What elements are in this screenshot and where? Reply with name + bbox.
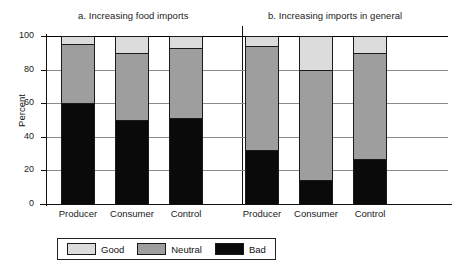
bar-segment-good [115,36,149,53]
chart-legend: GoodNeutralBad [57,238,276,260]
legend-item-good: Good [67,243,124,255]
bar-b-producer [245,36,279,204]
legend-swatch-bad [215,243,244,255]
y-tick-label-100: 100 [8,30,34,40]
panel-b-title: b. Increasing imports in general [268,10,402,21]
bar-segment-neutral [299,70,333,181]
bar-segment-bad [115,120,149,204]
legend-item-bad: Bad [215,243,266,255]
legend-label-good: Good [101,244,124,255]
bar-segment-good [245,36,279,46]
panel-a-title: a. Increasing food imports [78,10,189,21]
bar-a-producer [61,36,95,204]
legend-label-bad: Bad [249,244,266,255]
bar-segment-bad [169,118,203,204]
bar-segment-bad [353,159,387,204]
x-label-a-control: Control [151,208,221,219]
y-tick-label-40: 40 [8,131,34,141]
bar-segment-neutral [61,44,95,103]
y-tick-label-60: 60 [8,97,34,107]
bar-a-control [169,36,203,204]
plot-area [47,36,448,204]
bar-segment-neutral [169,48,203,119]
legend-swatch-good [67,243,96,255]
bar-segment-neutral [353,53,387,159]
legend-swatch-neutral [137,243,166,255]
y-tick-0 [41,204,47,205]
stacked-bar-chart-figure: a. Increasing food imports b. Increasing… [0,0,463,273]
legend-item-neutral: Neutral [137,243,202,255]
x-axis-baseline [40,204,452,205]
x-label-b-control: Control [335,208,405,219]
bar-segment-good [61,36,95,44]
bar-segment-neutral [115,53,149,120]
bar-segment-good [299,36,333,70]
bar-segment-good [353,36,387,53]
y-tick-label-0: 0 [8,198,34,208]
bar-b-consumer [299,36,333,204]
y-tick-label-20: 20 [8,164,34,174]
bar-segment-good [169,36,203,48]
bar-b-control [353,36,387,204]
bar-segment-bad [61,103,95,204]
y-tick-label-80: 80 [8,64,34,74]
legend-label-neutral: Neutral [171,244,202,255]
bar-segment-neutral [245,46,279,150]
bar-segment-bad [245,150,279,204]
bar-segment-bad [299,180,333,204]
bar-a-consumer [115,36,149,204]
